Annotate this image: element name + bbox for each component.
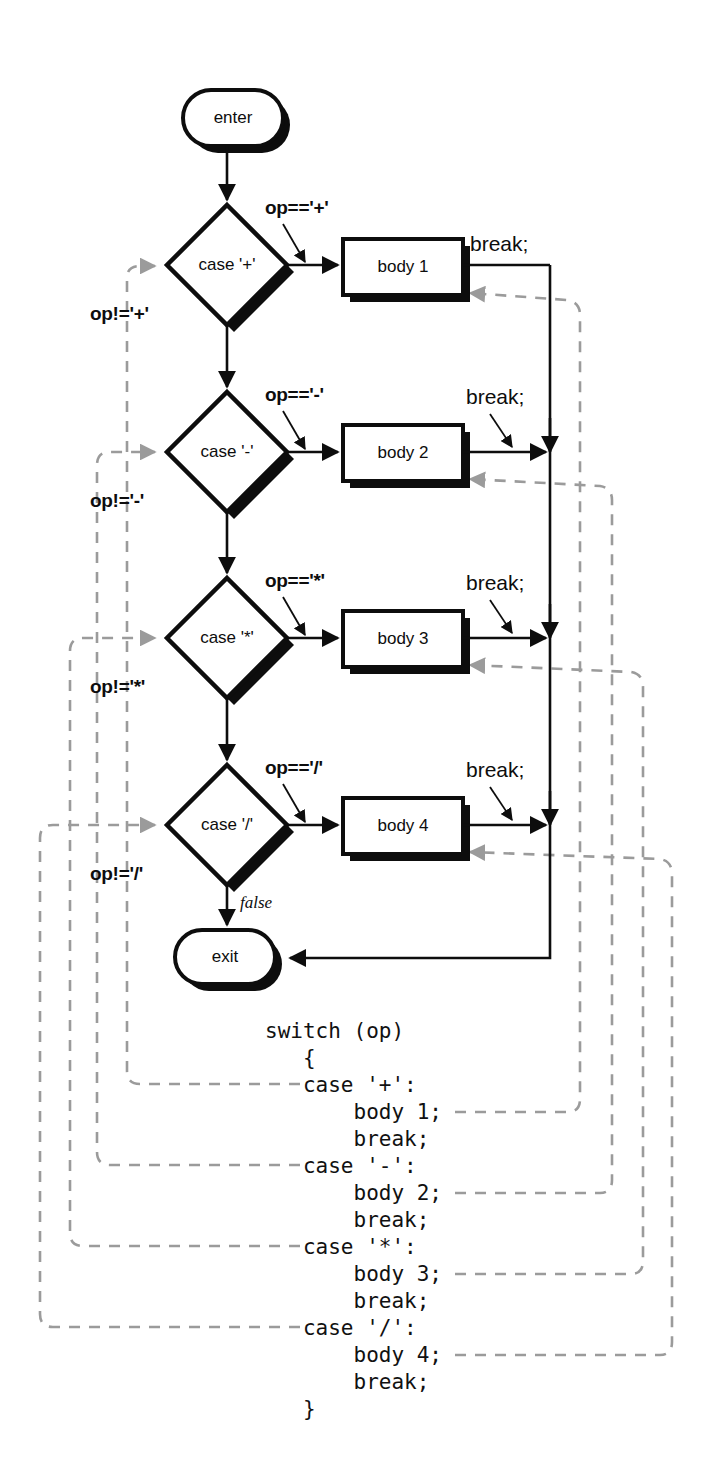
- body-1-label: body 1: [377, 257, 428, 276]
- case-4-label: case '/': [201, 815, 253, 834]
- case-2-true-pointer: [283, 411, 305, 449]
- body-2-label: body 2: [377, 443, 428, 462]
- flowchart-svg: enter case '+' op=='+' op!='+' body 1 br…: [0, 0, 712, 1482]
- code-line: body 4;: [265, 1343, 442, 1367]
- code-line: switch (op): [265, 1019, 404, 1043]
- code-line: break;: [265, 1370, 429, 1394]
- break-1-label: break;: [470, 232, 528, 255]
- break-2-pointer: [490, 414, 512, 447]
- case-2-true-label: op=='-': [265, 384, 324, 405]
- exit-label: exit: [212, 947, 239, 966]
- case-1-true-label: op=='+': [265, 197, 328, 218]
- code-line: case '/':: [265, 1316, 417, 1340]
- code-line: body 3;: [265, 1262, 442, 1286]
- code-line: case '-':: [265, 1154, 417, 1178]
- case-3-true-pointer: [283, 597, 305, 635]
- flowchart-figure: enter case '+' op=='+' op!='+' body 1 br…: [0, 0, 712, 1482]
- case-4-true-pointer: [283, 784, 305, 822]
- case-1-true-pointer: [283, 224, 305, 262]
- case-2-label: case '-': [201, 442, 254, 461]
- false-branch-label: false: [240, 893, 273, 912]
- code-line: body 1;: [265, 1100, 442, 1124]
- dashed-body-1: [455, 293, 580, 1112]
- break-4-pointer: [490, 787, 512, 820]
- code-line: case '+':: [265, 1073, 417, 1097]
- body-4-label: body 4: [377, 816, 428, 835]
- row-2: case '-' op=='-' op!='-' body 2 break;: [90, 325, 546, 519]
- case-2-false-label: op!='-': [90, 490, 144, 511]
- row-1: case '+' op=='+' op!='+' body 1 break;: [90, 197, 550, 332]
- case-3-label: case '*': [200, 628, 254, 647]
- break-3-pointer: [490, 600, 512, 633]
- code-line: break;: [265, 1289, 429, 1313]
- case-1-false-label: op!='+': [90, 303, 149, 324]
- enter-label: enter: [214, 108, 253, 127]
- code-line: }: [265, 1397, 316, 1421]
- body-3-label: body 3: [377, 629, 428, 648]
- dashed-body-4: [455, 852, 672, 1355]
- case-3-true-label: op=='*': [265, 570, 325, 591]
- code-line: {: [265, 1046, 316, 1070]
- case-4-true-label: op=='/': [265, 757, 323, 778]
- exit-node: exit: [175, 930, 282, 991]
- case-1-label: case '+': [198, 255, 255, 274]
- break-4-label: break;: [466, 758, 524, 781]
- code-line: break;: [265, 1208, 429, 1232]
- code-line: break;: [265, 1127, 429, 1151]
- row-4: case '/' op=='/' op!='/' body 4 break;: [90, 698, 546, 892]
- code-listing: switch (op) { case '+': body 1; break; c…: [265, 1019, 442, 1421]
- break-2-label: break;: [466, 385, 524, 408]
- case-3-false-label: op!='*': [90, 676, 145, 697]
- break-3-label: break;: [466, 571, 524, 594]
- enter-node: enter: [183, 90, 290, 153]
- row-3: case '*' op=='*' op!='*' body 3 break;: [90, 512, 546, 705]
- code-line: body 2;: [265, 1181, 442, 1205]
- code-line: case '*':: [265, 1235, 417, 1259]
- case-4-false-label: op!='/': [90, 863, 143, 884]
